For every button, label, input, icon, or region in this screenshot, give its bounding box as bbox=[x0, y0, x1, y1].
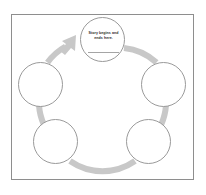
node-start-label: Story begins and ends here. bbox=[84, 31, 123, 41]
ring-segment-start-to-right bbox=[124, 48, 157, 63]
ring-segment-bottomright-to-bottomleft bbox=[70, 161, 135, 171]
node-circle-bottom-left[interactable] bbox=[33, 119, 78, 164]
node-circle-start[interactable]: Story begins and ends here. bbox=[80, 17, 125, 62]
node-circle-right[interactable] bbox=[141, 62, 186, 107]
node-circle-left[interactable] bbox=[18, 62, 63, 107]
worksheet-canvas: Story begins and ends here. bbox=[0, 0, 206, 195]
node-start-write-line[interactable] bbox=[88, 52, 119, 53]
ring-segment-right-to-bottomright bbox=[161, 105, 166, 125]
node-circle-bottom-right[interactable] bbox=[126, 119, 171, 164]
